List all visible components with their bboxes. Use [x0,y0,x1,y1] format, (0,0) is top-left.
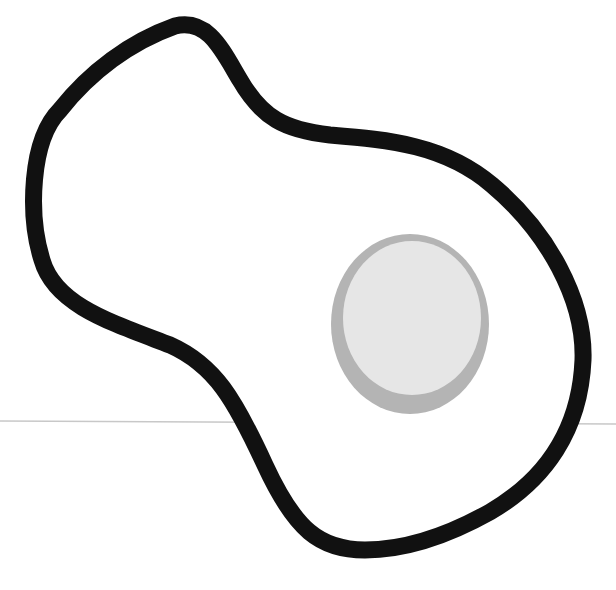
fried-egg-illustration [0,0,616,590]
egg-white [34,25,583,550]
yolk [343,241,481,395]
